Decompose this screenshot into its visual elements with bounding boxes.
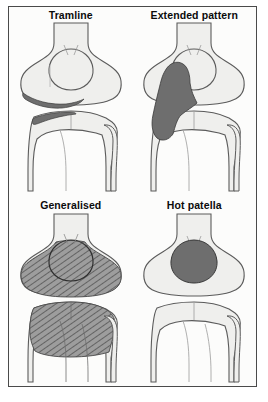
tibia-outline [28, 111, 117, 191]
panel-label-generalised: Generalised [9, 199, 133, 212]
panel-tramline: Tramline [9, 7, 133, 197]
tibia-outline [151, 302, 240, 382]
panel-generalised: Generalised [9, 197, 133, 387]
uptake-femur-generalised [21, 240, 121, 297]
figure-frame: Tramline [8, 6, 257, 387]
knee-diagram-hot-patella [135, 212, 253, 384]
panel-hot-patella: Hot patella [133, 197, 257, 387]
uptake-patella-hot [171, 240, 217, 283]
knee-diagram-generalised [12, 212, 130, 384]
knee-diagram-extended-pattern [135, 21, 253, 193]
uptake-tibia-generalised [29, 302, 114, 357]
panel-grid: Tramline [9, 7, 256, 386]
panel-label-hot-patella: Hot patella [133, 199, 257, 212]
panel-label-tramline: Tramline [9, 9, 133, 22]
femur-outline [21, 23, 121, 105]
panel-label-extended-pattern: Extended pattern [133, 9, 257, 22]
knee-diagram-tramline [12, 21, 130, 193]
panel-extended-pattern: Extended pattern [133, 7, 257, 197]
